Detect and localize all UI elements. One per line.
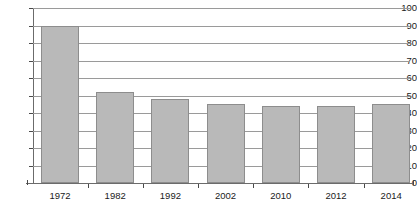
x-tick-label: 2012	[314, 190, 358, 201]
gridline-50	[33, 96, 410, 97]
x-tick-mark	[253, 184, 254, 188]
gridline-80	[33, 43, 410, 44]
bar	[207, 104, 245, 183]
x-tick-label: 2002	[204, 190, 248, 201]
x-tick-label: 2014	[369, 190, 413, 201]
x-axis-start-cap	[27, 180, 28, 185]
bar	[96, 92, 134, 183]
x-axis-end-cap	[413, 180, 414, 185]
x-tick-mark	[308, 184, 309, 188]
bar	[262, 106, 300, 183]
gridline-90	[33, 26, 410, 27]
bar	[151, 99, 189, 183]
x-tick-label: 1982	[93, 190, 137, 201]
gridline-70	[33, 61, 410, 62]
x-tick-mark	[88, 184, 89, 188]
x-tick-mark	[364, 184, 365, 188]
bar	[372, 104, 410, 183]
x-tick-label: 1972	[38, 190, 82, 201]
x-tick-mark	[198, 184, 199, 188]
x-tick-mark	[143, 184, 144, 188]
bar	[41, 26, 79, 184]
bar-chart: 0102030405060708090100 19721982199220022…	[0, 0, 417, 224]
x-tick-label: 1992	[148, 190, 192, 201]
x-tick-label: 2010	[259, 190, 303, 201]
gridline-60	[33, 78, 410, 79]
plot-area	[33, 8, 410, 183]
bar	[317, 106, 355, 183]
x-axis-line	[26, 183, 414, 184]
gridline-100	[33, 8, 410, 9]
